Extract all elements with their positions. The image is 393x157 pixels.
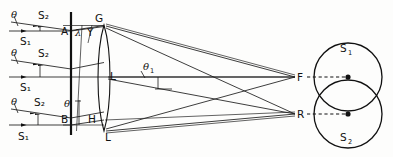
circle-S2-subscript: 2	[348, 138, 352, 146]
top-s2-label: S₂	[38, 9, 49, 21]
bot-theta-label: θ	[11, 96, 17, 107]
point-H-label: H	[88, 113, 96, 125]
ray-diagram-svg: θ S₂ S₁ θ S₂ S₁	[0, 0, 393, 157]
bot-s1-label: S₁	[18, 130, 29, 142]
ray-Lb-to-R	[106, 114, 295, 131]
top-theta-label: θ	[11, 9, 17, 20]
theta-b-label: θ	[64, 98, 70, 109]
mid-theta-label: θ	[11, 47, 17, 58]
lambda-label: λ	[74, 27, 81, 38]
ray-G-to-F	[106, 26, 295, 77]
circle-S2-label: S	[340, 131, 347, 143]
ray-G2-to-F	[106, 24, 295, 75]
point-B-label: B	[61, 113, 68, 125]
gamma-label: Y	[86, 26, 94, 38]
circle-S1-subscript: 1	[348, 49, 352, 57]
ray-Lb-to-F	[106, 77, 295, 129]
theta1-subscript: 1	[150, 67, 154, 75]
circle-S1-label: S	[340, 42, 347, 54]
mid-s2-ray-lens	[71, 63, 104, 70]
top-s1-label: S₁	[20, 35, 31, 47]
focus-R-label: R	[297, 108, 304, 120]
ray-L-to-R	[108, 79, 295, 114]
mid-s1-arrowhead	[21, 75, 27, 79]
theta1-label: θ	[143, 61, 149, 72]
mid-s2-ray	[11, 60, 71, 69]
bot-s1-arrowhead	[21, 123, 27, 127]
optics-figure: θ S₂ S₁ θ S₂ S₁	[0, 0, 393, 157]
focus-F-label: F	[297, 71, 303, 83]
converging-rays	[105, 24, 295, 133]
circle-S2-center-dot	[345, 111, 350, 116]
mid-s1-label: S₁	[20, 81, 31, 93]
biconvex-lens	[98, 25, 110, 131]
mid-s2-label: S₂	[38, 47, 49, 59]
point-L-label: L	[110, 70, 116, 82]
point-G-label: G	[95, 12, 103, 24]
point-L-bottom-label: L	[105, 131, 111, 143]
ray-G-to-R	[106, 28, 295, 114]
bot-s2-label: S₂	[34, 96, 45, 108]
top-s1-arrowhead	[21, 29, 27, 33]
circle-S1-center-dot	[345, 74, 350, 79]
point-A-label: A	[61, 25, 69, 37]
